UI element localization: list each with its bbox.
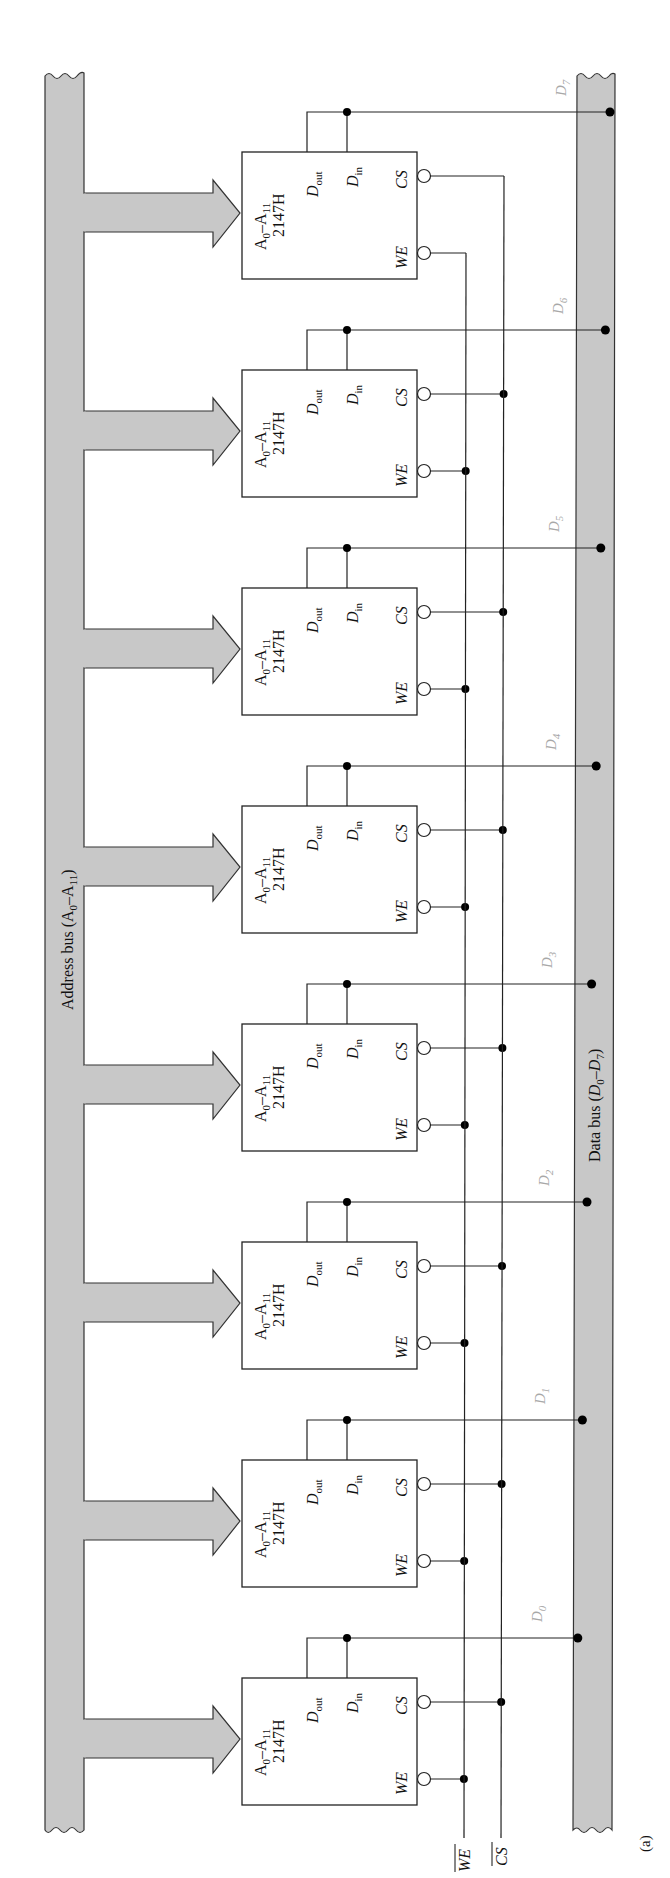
cs-bar-label: CS xyxy=(492,1842,510,1866)
cs-control-line xyxy=(501,176,504,1838)
we-bar-label: WE xyxy=(455,1844,473,1872)
cs-pin-label: CS xyxy=(393,1696,410,1715)
data-bus-tap-dot xyxy=(583,1198,592,1207)
cs-pin-label: CS xyxy=(393,388,410,407)
chip-part-label: 2147H xyxy=(270,1501,287,1545)
data-bus-tap-dot xyxy=(592,762,601,771)
address-arrow xyxy=(84,398,240,465)
we-pin-label: WE xyxy=(393,682,410,705)
cs-pin-label: CS xyxy=(393,1042,410,1061)
junction-dot xyxy=(343,1198,351,1206)
address-arrow xyxy=(84,1270,240,1337)
data-line-label: D2 xyxy=(536,1169,555,1187)
cs-pin-label: CS xyxy=(393,1260,410,1279)
we-pin-label: WE xyxy=(393,1336,410,1359)
dout-wire xyxy=(307,766,596,806)
cs-pin-label: CS xyxy=(393,606,410,625)
dout-wire xyxy=(307,112,610,152)
svg-text:WE: WE xyxy=(456,1849,473,1872)
we-pin-label: WE xyxy=(393,900,410,923)
we-pin-label: WE xyxy=(393,464,410,487)
data-bus-tap-dot xyxy=(606,108,615,117)
cs-inverter-bubble xyxy=(418,1042,431,1055)
junction-dot xyxy=(343,1416,351,1424)
chip-array: A0–A112147HDoutDinCSWED7A0–A112147HDoutD… xyxy=(83,79,615,1805)
dout-wire xyxy=(307,1202,587,1242)
junction-dot xyxy=(343,544,351,552)
memory-chip-slice: A0–A112147HDoutDinCSWED1 xyxy=(83,1388,587,1587)
cs-inverter-bubble xyxy=(418,388,431,401)
we-pin-label: WE xyxy=(393,1772,410,1795)
chip-part-label: 2147H xyxy=(270,1719,287,1763)
junction-dot xyxy=(343,1634,351,1642)
cs-inverter-bubble xyxy=(418,170,431,183)
address-arrow xyxy=(84,1706,240,1773)
we-inverter-bubble xyxy=(418,1773,431,1786)
svg-text:CS: CS xyxy=(493,1847,510,1866)
we-pin-label: WE xyxy=(393,1554,410,1577)
data-bus-tap-dot xyxy=(601,326,610,335)
data-bus-tap-dot xyxy=(587,980,596,989)
address-arrow xyxy=(84,180,240,247)
we-inverter-bubble xyxy=(418,901,431,914)
data-line-label: D6 xyxy=(550,297,569,315)
memory-chip-slice: A0–A112147HDoutDinCSWED5 xyxy=(83,515,605,715)
data-bus-tap-dot xyxy=(578,1416,587,1425)
junction-dot xyxy=(343,762,351,770)
cs-inverter-bubble xyxy=(418,1696,431,1709)
memory-chip-slice: A0–A112147HDoutDinCSWED7 xyxy=(83,79,615,279)
we-inverter-bubble xyxy=(418,1555,431,1568)
we-inverter-bubble xyxy=(418,1119,431,1132)
cs-pin-label: CS xyxy=(393,1478,410,1497)
chip-part-label: 2147H xyxy=(270,629,287,673)
memory-chip-slice: A0–A112147HDoutDinCSWED3 xyxy=(83,951,596,1151)
cs-inverter-bubble xyxy=(418,1478,431,1491)
cs-pin-label: CS xyxy=(393,824,410,843)
chip-part-label: 2147H xyxy=(270,1283,287,1327)
memory-chip-slice: A0–A112147HDoutDinCSWED2 xyxy=(83,1169,592,1369)
figure-label: (a) xyxy=(637,1835,654,1852)
memory-chip-slice: A0–A112147HDoutDinCSWED4 xyxy=(83,733,601,933)
dout-wire xyxy=(307,1638,578,1678)
chip-part-label: 2147H xyxy=(270,1065,287,1109)
dout-wire xyxy=(307,330,605,370)
we-inverter-bubble xyxy=(418,247,431,260)
chip-part-label: 2147H xyxy=(270,847,287,891)
data-line-label: D5 xyxy=(546,515,565,533)
cs-inverter-bubble xyxy=(418,824,431,837)
dout-wire xyxy=(307,1420,582,1460)
chip-part-label: 2147H xyxy=(270,411,287,455)
data-line-label: D0 xyxy=(529,1605,548,1623)
we-inverter-bubble xyxy=(418,465,431,478)
dout-wire xyxy=(307,548,601,588)
cs-inverter-bubble xyxy=(418,1260,431,1273)
address-arrow xyxy=(84,1052,240,1119)
data-line-label: D3 xyxy=(539,951,558,969)
we-inverter-bubble xyxy=(418,683,431,696)
memory-chip-slice: A0–A112147HDoutDinCSWED0 xyxy=(83,1605,582,1805)
we-pin-label: WE xyxy=(393,1118,410,1141)
junction-dot xyxy=(343,980,351,988)
we-inverter-bubble xyxy=(418,1337,431,1350)
data-line-label: D7 xyxy=(553,79,572,97)
cs-inverter-bubble xyxy=(418,606,431,619)
chip-part-label: 2147H xyxy=(270,193,287,237)
memory-array-diagram: A0–A112147HDoutDinCSWED7A0–A112147HDoutD… xyxy=(0,0,670,1878)
we-pin-label: WE xyxy=(393,246,410,269)
address-arrow xyxy=(84,1488,240,1555)
cs-pin-label: CS xyxy=(393,170,410,189)
junction-dot xyxy=(343,326,351,334)
junction-dot xyxy=(343,108,351,116)
dout-wire xyxy=(307,984,592,1024)
data-line-label: D4 xyxy=(543,733,562,751)
data-bus-tap-dot xyxy=(573,1634,582,1643)
data-bus xyxy=(573,73,615,1832)
address-arrow xyxy=(84,616,240,683)
we-control-line xyxy=(464,253,466,1838)
data-bus-tap-dot xyxy=(596,544,605,553)
memory-chip-slice: A0–A112147HDoutDinCSWED6 xyxy=(83,297,610,497)
address-arrow xyxy=(84,834,240,901)
data-line-label: D1 xyxy=(532,1388,551,1405)
